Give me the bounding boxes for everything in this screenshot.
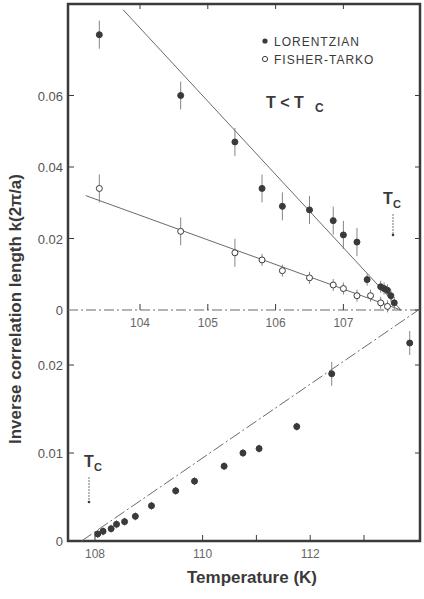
tc-label-bottom: T C <box>84 453 102 473</box>
figure: 00.020.040.06104105106107 00.010.0210811… <box>0 0 424 599</box>
x-tick-label: 106 <box>266 316 286 330</box>
x-axis-label: Temperature (K) <box>40 568 424 588</box>
plot-frame <box>68 4 420 541</box>
data-point-filled <box>221 463 227 469</box>
data-point-open <box>232 250 238 256</box>
x-tick-label: 107 <box>333 316 353 330</box>
y-tick-label: 0.06 <box>38 89 63 104</box>
tc-arrow-head <box>392 234 395 237</box>
data-point-filled <box>192 478 198 484</box>
data-point-filled <box>108 526 114 532</box>
data-point-filled <box>100 528 106 534</box>
x-tick-label: 105 <box>198 316 218 330</box>
data-point-open <box>354 293 360 299</box>
y-tick-label: 0.04 <box>38 160 63 175</box>
data-point-filled <box>232 139 238 145</box>
condition-text: T < T <box>266 94 304 111</box>
chart-canvas: 00.020.040.06104105106107 00.010.0210811… <box>0 0 424 599</box>
data-point-open <box>307 275 313 281</box>
data-point-filled <box>256 446 262 452</box>
x-tick-label: 110 <box>193 547 212 561</box>
data-point-filled <box>240 450 246 456</box>
x-tick-label: 104 <box>130 316 150 330</box>
data-point-filled <box>114 521 120 527</box>
legend-label-lorentzian: LORENTZIAN <box>274 35 360 49</box>
y-tick-label: 0.01 <box>38 446 63 461</box>
data-point-filled <box>122 519 128 525</box>
condition-annotation: T < T C <box>266 94 324 115</box>
data-point-filled <box>364 277 370 283</box>
data-point-open <box>384 303 390 309</box>
data-point-open <box>96 185 102 191</box>
data-point-filled <box>407 340 413 346</box>
data-point-open <box>259 257 265 263</box>
x-tick-label: 108 <box>85 547 105 561</box>
legend-filled-circle-icon <box>262 38 267 43</box>
data-point-open <box>279 268 285 274</box>
data-point-open <box>178 228 184 234</box>
data-point-filled <box>132 513 138 519</box>
tc-label-bottom-main: T <box>84 453 94 470</box>
data-point-filled <box>330 218 336 224</box>
data-point-filled <box>391 300 397 306</box>
data-point-filled <box>148 503 154 509</box>
legend: LORENTZIAN FISHER-TARKO <box>262 35 374 67</box>
data-point-filled <box>178 93 184 99</box>
data-point-open <box>378 300 384 306</box>
tc-label-top-sub: C <box>393 198 401 210</box>
data-point-filled <box>173 488 179 494</box>
tc-label-top: T C <box>383 190 401 210</box>
y-axis-label: Inverse correlation length k(2π/a) <box>6 174 26 444</box>
x-tick-label: 112 <box>301 547 320 561</box>
data-point-filled <box>340 232 346 238</box>
legend-label-fisher-tarko: FISHER-TARKO <box>274 53 374 67</box>
fit-line <box>82 310 418 541</box>
data-point-filled <box>384 287 390 293</box>
condition-subscript: C <box>315 101 324 115</box>
y-tick-label: 0.02 <box>38 358 63 373</box>
data-point-filled <box>96 32 102 38</box>
fit-line <box>86 196 401 310</box>
data-point-filled <box>307 207 313 213</box>
data-point-filled <box>259 185 265 191</box>
data-point-filled <box>294 424 300 430</box>
data-point-open <box>330 282 336 288</box>
tc-label-bottom-sub: C <box>94 461 102 473</box>
data-point-filled <box>279 203 285 209</box>
y-tick-label: 0 <box>56 303 63 318</box>
y-tick-label: 0.02 <box>38 232 63 247</box>
data-point-filled <box>354 239 360 245</box>
legend-open-circle-icon <box>262 56 267 61</box>
data-point-open <box>340 286 346 292</box>
bottom-panel: 00.010.02108110112 <box>38 310 420 561</box>
y-tick-label: 0 <box>56 534 63 549</box>
data-point-filled <box>329 371 335 377</box>
tc-arrow-head <box>88 501 91 504</box>
data-point-filled <box>388 293 394 299</box>
data-point-open <box>368 293 374 299</box>
tc-label-top-main: T <box>383 190 393 207</box>
